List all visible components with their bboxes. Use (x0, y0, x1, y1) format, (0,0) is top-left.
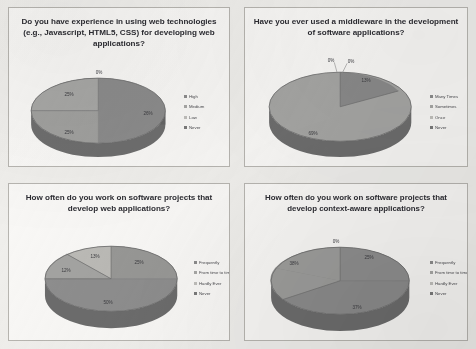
legend-swatch-icon (184, 126, 187, 129)
slice-label-high: 26% (143, 111, 152, 116)
slice-label-frequently: 0% (333, 239, 340, 244)
legend-item-never: Never (194, 291, 230, 296)
legend-label: Never (189, 125, 200, 130)
legend-swatch-icon (194, 271, 197, 274)
legend-label: Hardly Ever (435, 281, 457, 286)
legend-swatch-icon (194, 292, 197, 295)
slice-label-many-times: 13% (361, 78, 370, 83)
legend-label: Sometimes (435, 104, 457, 109)
chart-panel-web-tech-experience: Do you have experience in using web tech… (8, 7, 230, 167)
legend-item-never: Never (430, 291, 468, 296)
legend-item-frequently: Frequently (194, 260, 230, 265)
legend-label: Never (435, 125, 446, 130)
legend-swatch-icon (430, 116, 433, 119)
legend-item-from-time-to-time: From time to time (430, 270, 468, 275)
slice-label-never: 50% (103, 300, 112, 305)
legend-item-sometimes: Sometimes (430, 104, 458, 109)
slice-label-medium: 25% (64, 92, 73, 97)
legend-item-medium: Medium (184, 104, 204, 109)
legend-swatch-icon (184, 105, 187, 108)
legend-item-hardly-ever: Hardly Ever (194, 281, 230, 286)
pie-chart-middleware-usage (245, 8, 467, 166)
legend-item-from-time-to-time: From time to time (194, 270, 230, 275)
slice-label-once: 0% (348, 59, 355, 64)
legend-label: From time to time (435, 270, 468, 275)
legend-item-never: Never (430, 125, 458, 130)
legend-label: Never (435, 291, 446, 296)
legend-item-low: Low (184, 115, 204, 120)
slice-label-low: 25% (64, 130, 73, 135)
legend-label: Frequently (199, 260, 219, 265)
legend-swatch-icon (430, 126, 433, 129)
scanned-figure-page: Do you have experience in using web tech… (0, 0, 476, 349)
legend-swatch-icon (430, 261, 433, 264)
legend-label: High (189, 94, 198, 99)
legend-label: Once (435, 115, 445, 120)
chart-panel-middleware-usage: Have you ever used a middleware in the d… (244, 7, 468, 167)
legend-item-once: Once (430, 115, 458, 120)
chart-legend: High Medium Low Never (184, 94, 204, 130)
legend-swatch-icon (430, 105, 433, 108)
legend-item-frequently: Frequently (430, 260, 468, 265)
legend-swatch-icon (430, 95, 433, 98)
slice-label-never: 37% (352, 305, 361, 310)
legend-label: Low (189, 115, 197, 120)
slice-label-never: 69% (308, 131, 317, 136)
legend-swatch-icon (194, 261, 197, 264)
slice-label-hardly-ever: 12% (61, 268, 70, 273)
legend-swatch-icon (430, 271, 433, 274)
legend-swatch-icon (430, 282, 433, 285)
legend-swatch-icon (194, 282, 197, 285)
legend-label: Many Times (435, 94, 458, 99)
legend-item-many-times: Many Times (430, 94, 458, 99)
slice-label-from-time-to-time: 25% (364, 255, 373, 260)
chart-panel-web-projects-frequency: How often do you work on software projec… (8, 183, 230, 341)
slice-label-never: 0% (96, 70, 103, 75)
chart-legend: Many Times Sometimes Once Never (430, 94, 458, 130)
legend-label: Hardly Ever (199, 281, 221, 286)
legend-swatch-icon (184, 116, 187, 119)
legend-label: Medium (189, 104, 204, 109)
legend-label: Frequently (435, 260, 455, 265)
slice-label-hardly-ever: 38% (289, 261, 298, 266)
chart-legend: Frequently From time to time Hardly Ever… (194, 260, 230, 296)
chart-legend: Frequently From time to time Hardly Ever… (430, 260, 468, 296)
slice-label-frequently: 25% (134, 260, 143, 265)
legend-label: From time to time (199, 270, 230, 275)
chart-panel-context-aware-projects-frequency: How often do you work on software projec… (244, 183, 468, 341)
legend-item-high: High (184, 94, 204, 99)
slice-label-from-time-to-time: 13% (90, 254, 99, 259)
legend-swatch-icon (430, 292, 433, 295)
legend-item-never: Never (184, 125, 204, 130)
legend-label: Never (199, 291, 210, 296)
pie-chart-web-tech-experience (9, 8, 229, 166)
legend-swatch-icon (184, 95, 187, 98)
legend-item-hardly-ever: Hardly Ever (430, 281, 468, 286)
slice-label-sometimes: 0% (328, 58, 335, 63)
